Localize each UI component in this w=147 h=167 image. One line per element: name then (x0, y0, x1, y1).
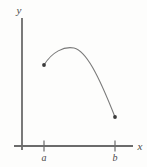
graph-canvas: y x a b (0, 0, 147, 167)
right-endpoint-dot (113, 115, 117, 119)
tick-label-a: a (42, 152, 47, 163)
y-axis-label: y (16, 4, 22, 16)
function-graph-figure: y x a b (0, 0, 147, 167)
tick-label-b: b (113, 152, 118, 163)
x-axis-label: x (137, 140, 143, 152)
function-curve (44, 48, 115, 117)
left-endpoint-dot (42, 63, 46, 67)
